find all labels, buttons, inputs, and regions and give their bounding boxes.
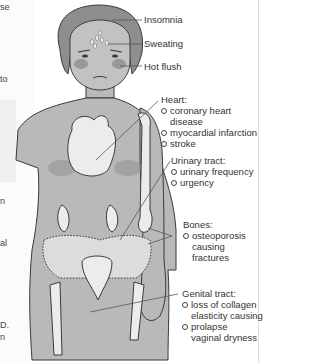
- bullet-icon: [161, 130, 167, 136]
- label-sweating: Sweating: [144, 38, 183, 49]
- genital-item: prolapse: [182, 321, 263, 332]
- urinary-item: urinary frequency: [171, 166, 253, 177]
- genital-item-continued: vaginal dryness: [182, 332, 263, 343]
- genital-item: loss of collagen: [182, 299, 263, 310]
- bullet-icon: [182, 324, 188, 330]
- urinary-title: Urinary tract:: [171, 155, 253, 166]
- bullet-icon: [171, 169, 177, 175]
- bullet-icon: [183, 233, 189, 239]
- group-bones: Bones: osteoporosis causing fractures: [183, 219, 246, 263]
- heart-organ: [68, 116, 116, 176]
- label-insomnia: Insomnia: [144, 14, 183, 25]
- bullet-icon: [161, 108, 167, 114]
- group-heart: Heart: coronary heart disease myocardial…: [161, 94, 263, 149]
- group-genital: Genital tract: loss of collagen elastici…: [182, 288, 263, 343]
- genital-item-continued: elasticity causing: [182, 310, 263, 321]
- bullet-icon: [171, 180, 177, 186]
- bones-item: osteoporosis: [183, 230, 246, 241]
- heart-item: stroke: [161, 138, 263, 149]
- label-hot-flush: Hot flush: [144, 61, 182, 72]
- heart-item: myocardial infarction: [161, 127, 263, 138]
- bullet-icon: [161, 141, 167, 147]
- heart-item: coronary heart disease: [161, 105, 263, 127]
- bullet-icon: [182, 302, 188, 308]
- bones-item-continued: causing: [183, 241, 246, 252]
- urinary-item: urgency: [171, 177, 253, 188]
- heart-title: Heart:: [161, 94, 263, 105]
- bones-title: Bones:: [183, 219, 246, 230]
- genital-title: Genital tract:: [182, 288, 263, 299]
- group-urinary: Urinary tract: urinary frequency urgency: [171, 155, 253, 188]
- bones-item-continued: fractures: [183, 252, 246, 263]
- face: [70, 20, 130, 90]
